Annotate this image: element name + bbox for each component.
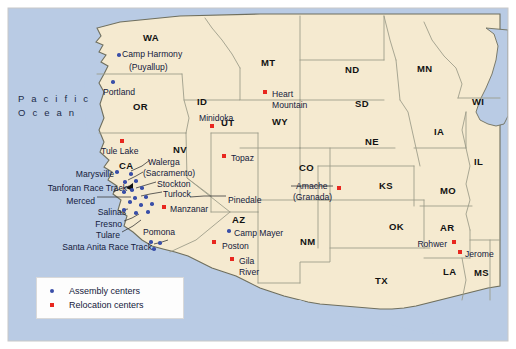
state-label-mt: MT: [261, 58, 276, 68]
relocation-marker-tule-lake: [120, 139, 124, 143]
place-label-pomona: Pomona: [143, 228, 175, 237]
state-label-la: LA: [443, 267, 456, 277]
assembly-marker-7: [133, 196, 137, 200]
state-label-ia: IA: [434, 127, 444, 137]
assembly-marker-2: [123, 180, 127, 184]
assembly-marker-10: [139, 203, 143, 207]
assembly-marker-9: [128, 200, 132, 204]
place-label-granada: (Granada): [293, 193, 332, 202]
state-label-co: CO: [299, 163, 314, 173]
relocation-marker-manzanar: [162, 205, 166, 209]
relocation-marker-topaz: [222, 154, 226, 158]
relocation-marker-rohwer: [452, 240, 456, 244]
place-label-puyallup: (Puyallup): [129, 63, 168, 72]
legend-item-assembly: Assembly centers: [45, 286, 140, 296]
place-label-camp-harmony: Camp Harmony: [122, 50, 182, 59]
state-label-ok: OK: [389, 222, 404, 232]
state-label-ca: CA: [119, 161, 134, 171]
place-label-fresno: Fresno: [0, 220, 122, 229]
ocean-label-line1: P a c i f i c: [18, 92, 90, 106]
relocation-marker-minidoka: [210, 124, 214, 128]
state-label-mo: MO: [440, 186, 456, 196]
state-label-ar: AR: [440, 223, 455, 233]
assembly-marker-17: [149, 240, 153, 244]
legend-item-relocation: Relocation centers: [45, 300, 144, 310]
assembly-marker-13: [134, 211, 138, 215]
place-label-camp-mayer: Camp Mayer: [234, 229, 283, 238]
assembly-marker-18: [158, 241, 162, 245]
relocation-marker-poston: [212, 240, 216, 244]
place-label-jerome: Jerome: [465, 250, 494, 259]
state-label-nd: ND: [345, 65, 360, 75]
state-label-mn: MN: [417, 64, 433, 74]
relocation-marker-amache: [337, 186, 341, 190]
state-label-nv: NV: [173, 145, 187, 155]
place-label-stockton: Stockton: [157, 180, 190, 189]
relocation-marker-gila: [230, 257, 234, 261]
relocation-marker-jerome: [458, 250, 462, 254]
place-label-tulare: Tulare: [0, 231, 120, 240]
state-label-ks: KS: [379, 181, 393, 191]
assembly-marker-5: [140, 186, 144, 190]
place-label-minidoka: Minidoka: [199, 114, 233, 123]
assembly-marker-20: [227, 229, 231, 233]
assembly-marker-0: [115, 170, 119, 174]
state-label-ms: MS: [474, 268, 489, 278]
place-label-amache: Amache: [296, 182, 328, 191]
assembly-marker-12: [122, 208, 126, 212]
legend-box: Assembly centers Relocation centers: [36, 277, 184, 319]
assembly-dot-icon: [45, 289, 59, 293]
place-label-tule-lake: Tule Lake: [101, 147, 138, 156]
ocean-label: P a c i f i c O c e a n: [18, 92, 90, 120]
place-label-heart: Heart: [272, 90, 293, 99]
assembly-marker-4: [130, 188, 134, 192]
state-label-or: OR: [133, 102, 148, 112]
place-label-gila: Gila: [239, 257, 254, 266]
assembly-marker-19: [152, 247, 156, 251]
place-label-topaz: Topaz: [231, 154, 254, 163]
state-label-wa: WA: [143, 33, 159, 43]
place-label-turlock: Turlock: [163, 190, 191, 199]
ocean-label-line2: O c e a n: [18, 106, 90, 120]
place-label-salinas: Salinas: [0, 208, 126, 217]
state-label-il: IL: [474, 157, 483, 167]
place-label-sacramento: (Sacramento): [143, 169, 195, 178]
state-label-wi: WI: [472, 97, 484, 107]
assembly-marker-8: [144, 195, 148, 199]
relocation-marker-heart: [263, 90, 267, 94]
legend-label-relocation: Relocation centers: [69, 300, 144, 310]
place-label-portland: Portland: [103, 88, 135, 97]
place-label-marysville: Marysville: [0, 170, 114, 179]
legend-label-assembly: Assembly centers: [69, 286, 140, 296]
place-label-walerga: Walerga: [148, 158, 180, 167]
assembly-marker-14: [146, 210, 150, 214]
place-label-river: River: [239, 268, 259, 277]
assembly-marker-16: [117, 53, 121, 57]
assembly-marker-1: [129, 172, 133, 176]
state-label-az: AZ: [232, 215, 245, 225]
state-label-wy: WY: [272, 117, 288, 127]
assembly-marker-15: [111, 80, 115, 84]
place-label-manzanar: Manzanar: [170, 205, 208, 214]
assembly-marker-11: [150, 202, 154, 206]
state-label-id: ID: [197, 97, 207, 107]
place-label-merced: Merced: [0, 197, 95, 206]
state-label-ne: NE: [365, 137, 379, 147]
place-label-rohwer: Rohwer: [0, 240, 447, 249]
relocation-square-icon: [45, 303, 59, 308]
place-label-pinedale: Pinedale: [228, 196, 261, 205]
state-label-sd: SD: [355, 99, 369, 109]
state-label-tx: TX: [375, 276, 388, 286]
place-label-mountain: Mountain: [272, 101, 307, 110]
place-label-tanforan-race-track: Tanforan Race Track: [0, 184, 127, 193]
assembly-marker-3: [134, 179, 138, 183]
map-container: P a c i f i c O c e a n WAORCANVIDMTWYUT…: [0, 0, 516, 349]
assembly-marker-6: [122, 190, 126, 194]
